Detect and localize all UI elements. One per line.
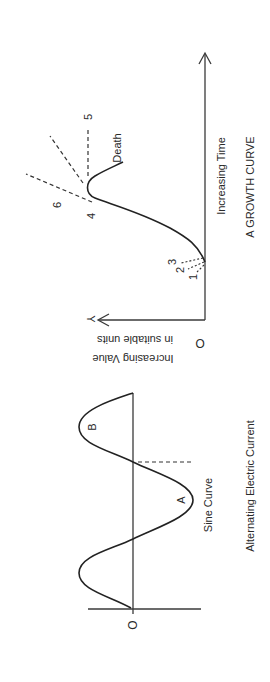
death-label: Death [111,133,123,162]
label-3: 3 [166,259,178,265]
value-axis-label-line2: in suitable units [97,334,173,346]
label-4: 4 [85,213,97,219]
sine-curve-label: Sine Curve [202,478,214,532]
sine-origin-label: O [126,620,140,629]
dotted-line-2 [188,262,204,269]
growth-origin-label: O [195,336,204,350]
peak-label-a: A [175,496,187,504]
dotted-line-1 [197,265,204,272]
time-axis-label: Increasing Time [215,137,227,215]
label-1: 1 [187,274,199,280]
diagram-canvas: 3 2 1 4 5 6 Death Increasing Time A GROW… [0,0,270,682]
growth-curve-line [88,162,206,262]
sine-curve-figure: A B Sine Curve Alternating Electric Curr… [79,393,256,630]
dashed-line-upper [50,136,83,183]
label-5: 5 [82,114,94,120]
dotted-line-3 [181,258,203,263]
growth-curve-figure: 3 2 1 4 5 6 Death Increasing Time A GROW… [26,53,256,365]
label-6: 6 [51,202,63,208]
growth-curve-title: A GROWTH CURVE [244,136,256,237]
dashed-line-6 [26,174,92,202]
peak-label-b: B [86,423,98,430]
y-axis-letter: Y [85,315,97,323]
label-2: 2 [174,267,186,273]
sine-curve-title: Alternating Electric Current [244,420,256,551]
value-axis-label-line1: Increasing Value [92,353,173,365]
